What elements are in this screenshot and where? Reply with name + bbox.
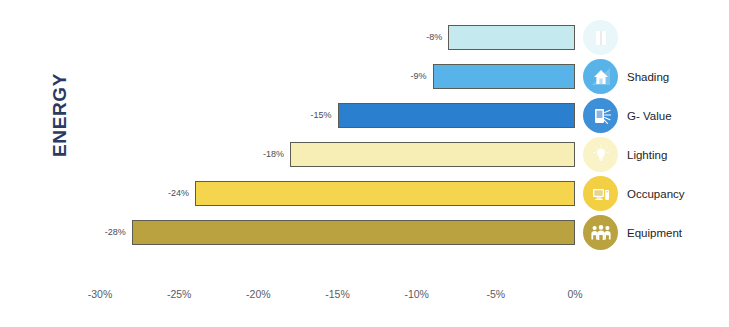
legend-item[interactable] xyxy=(583,18,627,57)
lightbulb-icon xyxy=(583,137,618,172)
x-axis-tick-label: -5% xyxy=(486,288,505,300)
bar-row: -18% xyxy=(100,135,575,174)
bar-value-label: -8% xyxy=(394,30,442,44)
energy-bar-chart: ENERGY -8%-9%-15%-18%-24%-28% ShadingG- … xyxy=(0,0,729,327)
bar-row: -15% xyxy=(100,96,575,135)
bar-row: -9% xyxy=(100,57,575,96)
bar[interactable] xyxy=(132,220,575,245)
bar-value-label: -24% xyxy=(141,186,189,200)
x-axis-tick-label: -25% xyxy=(167,288,192,300)
bar-row: -8% xyxy=(100,18,575,57)
bar-value-label: -15% xyxy=(284,108,332,122)
legend-label: G- Value xyxy=(627,110,672,122)
axis-title-energy: ENERGY xyxy=(40,55,80,175)
bar-value-label: -18% xyxy=(236,147,284,161)
legend-label: Occupancy xyxy=(627,188,685,200)
legend-label: Equipment xyxy=(627,227,682,239)
bar-value-label: -28% xyxy=(78,225,126,239)
legend-label: Lighting xyxy=(627,149,667,161)
bar-value-label: -9% xyxy=(379,69,427,83)
bar[interactable] xyxy=(433,64,576,89)
plot-area: -8%-9%-15%-18%-24%-28% xyxy=(100,18,575,273)
bar-row: -24% xyxy=(100,174,575,213)
shading-house-icon xyxy=(583,59,618,94)
bar[interactable] xyxy=(338,103,576,128)
x-axis-tick-label: -10% xyxy=(404,288,429,300)
legend-item-equipment[interactable]: Equipment xyxy=(583,213,682,252)
x-axis-tick-label: 0% xyxy=(567,288,582,300)
bar[interactable] xyxy=(195,181,575,206)
legend-item-g-value[interactable]: G- Value xyxy=(583,96,672,135)
bar-row: -28% xyxy=(100,213,575,252)
window-icon xyxy=(583,20,618,55)
legend-item-lighting[interactable]: Lighting xyxy=(583,135,667,174)
x-axis-tick-label: -15% xyxy=(325,288,350,300)
computer-monitor-icon xyxy=(583,176,618,211)
legend-item-shading[interactable]: Shading xyxy=(583,57,669,96)
legend-label: Shading xyxy=(627,71,669,83)
bar[interactable] xyxy=(448,25,575,50)
glazing-sunrays-icon xyxy=(583,98,618,133)
x-axis-tick-label: -30% xyxy=(88,288,113,300)
x-axis: -30%-25%-20%-15%-10%-5%0% xyxy=(100,288,575,304)
bar[interactable] xyxy=(290,142,575,167)
legend-item-occupancy[interactable]: Occupancy xyxy=(583,174,685,213)
three-people-icon xyxy=(583,215,618,250)
x-axis-tick-label: -20% xyxy=(246,288,271,300)
